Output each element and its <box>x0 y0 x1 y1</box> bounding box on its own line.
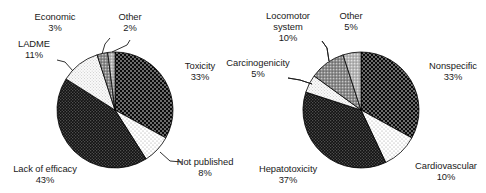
pie-label-other: Other 2% <box>106 11 154 33</box>
leader-line-locomotor <box>322 41 329 61</box>
pie-chart-toxicity-breakdown: Locomotor system 10% Other 5% Carcinogen… <box>243 0 486 193</box>
pie-label-not-published: Not published 8% <box>168 156 242 178</box>
pie-label-carcinogenicity: Carcinogenicity 5% <box>219 57 297 79</box>
pie-label-economic: Economic 3% <box>20 11 90 33</box>
leader-line-economic <box>102 38 110 54</box>
pie-label-cardiovascular: Cardiovascular 10% <box>407 160 485 182</box>
two-pie-chart-figure: Economic 3% Other 2% LADME 11% Toxicity … <box>0 0 486 193</box>
leader-line-other <box>112 40 130 52</box>
pie-label-hepatotoxicity: Hepatotoxicity 37% <box>247 163 329 185</box>
pie-label-lack-of-efficacy: Lack of efficacy 43% <box>2 163 88 185</box>
pie-label-other: Other 5% <box>327 10 375 32</box>
pie-chart-reasons-for-attrition: Economic 3% Other 2% LADME 11% Toxicity … <box>0 0 243 193</box>
leader-line-ladme <box>57 60 73 71</box>
pie-label-nonspecific: Nonspecific 33% <box>421 60 485 82</box>
pie-label-locomotor-system: Locomotor system 10% <box>255 10 321 43</box>
pie-label-ladme: LADME 11% <box>8 38 60 60</box>
